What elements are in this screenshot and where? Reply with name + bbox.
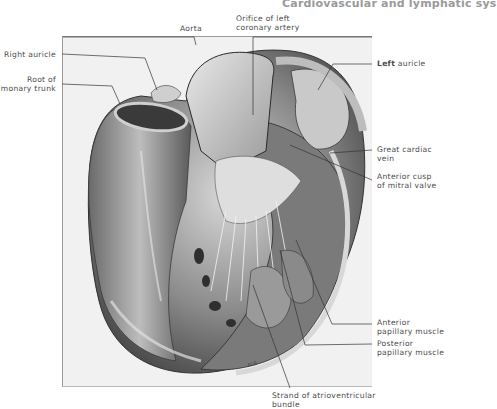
label-great-cardiac-vein-line1: Great cardiac [377,145,432,154]
label-strand-av-bundle-line1: Strand of atrioventricular [272,391,376,400]
illustration-panel: ALB [62,36,372,387]
label-left-auricle-rest: auricle [395,59,425,68]
label-left-auricle: Left auricle [377,59,426,68]
label-root-pulmonary-line2: monary trunk [1,84,56,93]
label-great-cardiac-vein-line2: vein [377,154,394,163]
label-orifice-left-coronary-line1: Orifice of left [236,14,290,23]
label-anterior-cusp-line2: of mitral valve [377,181,436,190]
label-anterior-papillary-line2: papillary muscle [377,327,444,336]
label-anterior-papillary-line1: Anterior [377,318,410,327]
label-posterior-papillary-line1: Posterior [377,339,413,348]
label-root-pulmonary-line1: Root of [27,75,56,84]
running-header: Cardiovascular and lymphatic sys [282,0,497,10]
label-left-auricle-bold: Left [377,59,395,68]
heart-illustration: ALB [63,37,372,387]
label-strand-av-bundle-line2: bundle [272,400,300,409]
label-posterior-papillary-line2: papillary muscle [377,348,444,357]
label-orifice-left-coronary-line2: coronary artery [236,23,299,32]
label-anterior-cusp-line1: Anterior cusp [377,172,432,181]
label-right-auricle: Right auricle [4,50,56,59]
label-aorta: Aorta [180,24,202,33]
